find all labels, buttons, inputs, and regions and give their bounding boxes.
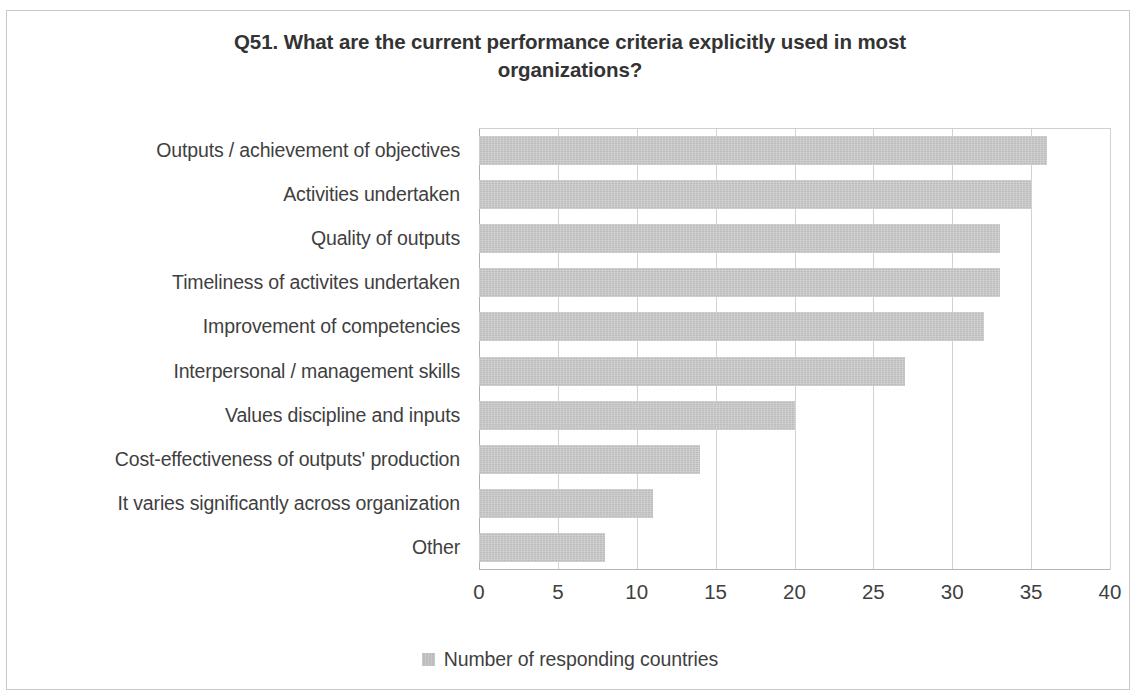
value-axis-tick-labels: 0510152025303540 <box>479 580 1110 610</box>
bar-slot <box>479 437 1110 481</box>
chart-container: Q51. What are the current performance cr… <box>0 0 1140 698</box>
x-tick-label: 0 <box>473 580 484 604</box>
category-label: Other <box>0 526 460 570</box>
bar[interactable] <box>479 312 984 341</box>
chart-legend: Number of responding countries <box>0 648 1140 671</box>
gridline-40 <box>1110 128 1111 570</box>
bar[interactable] <box>479 224 1000 253</box>
category-label: Values discipline and inputs <box>0 393 460 437</box>
category-label: Outputs / achievement of objectives <box>0 128 460 172</box>
bar[interactable] <box>479 533 605 562</box>
x-tick-label: 5 <box>552 580 563 604</box>
x-tick-label: 40 <box>1099 580 1122 604</box>
bar-slot <box>479 305 1110 349</box>
category-label: Timeliness of activites undertaken <box>0 261 460 305</box>
plot-area <box>479 128 1110 570</box>
chart-title-line-1: Q51. What are the current performance cr… <box>234 30 906 53</box>
bar[interactable] <box>479 357 905 386</box>
category-label: Interpersonal / management skills <box>0 349 460 393</box>
chart-title-line-2: organizations? <box>498 58 642 81</box>
bar-slot <box>479 526 1110 570</box>
x-tick-label: 20 <box>783 580 806 604</box>
bar[interactable] <box>479 180 1031 209</box>
category-label: It varies significantly across organizat… <box>0 482 460 526</box>
chart-title: Q51. What are the current performance cr… <box>150 28 990 83</box>
x-tick-label: 15 <box>704 580 727 604</box>
bar[interactable] <box>479 136 1047 165</box>
bar-series <box>479 128 1110 570</box>
x-tick-label: 35 <box>1020 580 1043 604</box>
bar[interactable] <box>479 401 795 430</box>
bar-slot <box>479 482 1110 526</box>
bar-slot <box>479 393 1110 437</box>
category-label: Improvement of competencies <box>0 305 460 349</box>
bar-slot <box>479 172 1110 216</box>
bar[interactable] <box>479 445 700 474</box>
x-tick-label: 25 <box>862 580 885 604</box>
bar[interactable] <box>479 268 1000 297</box>
bar-slot <box>479 128 1110 172</box>
category-label: Activities undertaken <box>0 172 460 216</box>
bar-slot <box>479 216 1110 260</box>
legend-swatch-icon <box>422 653 435 666</box>
bar-slot <box>479 349 1110 393</box>
category-axis-labels: Outputs / achievement of objectivesActiv… <box>10 128 470 570</box>
legend-label: Number of responding countries <box>444 648 719 671</box>
category-label: Cost-effectiveness of outputs' productio… <box>0 437 460 481</box>
bar-slot <box>479 261 1110 305</box>
category-label: Quality of outputs <box>0 216 460 260</box>
x-tick-label: 30 <box>941 580 964 604</box>
x-tick-label: 10 <box>625 580 648 604</box>
bar[interactable] <box>479 489 653 518</box>
